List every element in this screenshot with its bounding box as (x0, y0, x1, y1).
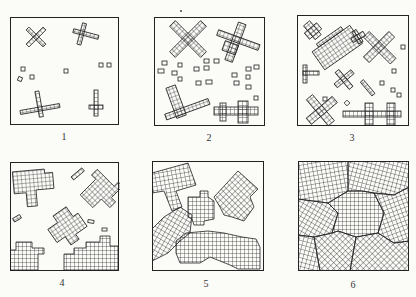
panel-1: 1 (10, 17, 120, 126)
panel-6: 6 (298, 161, 410, 272)
panel-4: 4 (10, 162, 120, 272)
panel-4-drawing (10, 162, 120, 272)
panel-1-label: 1 (54, 131, 74, 142)
panel-3: 3 (297, 15, 410, 127)
panel-5-drawing (152, 161, 265, 272)
panel-6-drawing (298, 161, 410, 272)
panel-4-label: 4 (52, 277, 72, 288)
panel-3-drawing (297, 15, 410, 127)
panel-3-label: 3 (342, 132, 362, 143)
panel-5: 5 (152, 161, 265, 272)
panel-5-label: 5 (196, 278, 216, 289)
panel-1-drawing (10, 17, 120, 126)
panel-6-label: 6 (343, 279, 363, 290)
stray-dot (180, 10, 182, 12)
panel-2: 2 (154, 17, 266, 127)
panel-2-label: 2 (199, 132, 219, 143)
panel-2-drawing (154, 17, 266, 127)
